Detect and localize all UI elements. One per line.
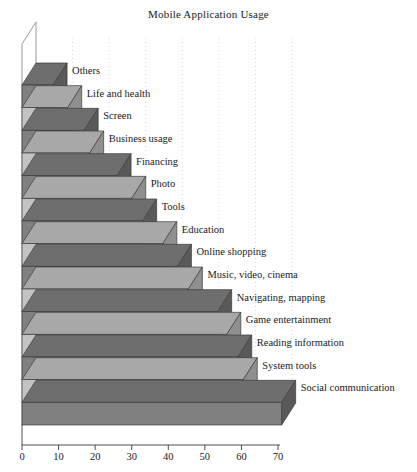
bar-3d bbox=[22, 380, 296, 425]
bar-top-face bbox=[22, 154, 131, 176]
bar-label: Life and health bbox=[87, 89, 151, 100]
bar-label: Screen bbox=[103, 111, 132, 122]
x-tick-label-50: 50 bbox=[200, 452, 211, 463]
bar-front-face bbox=[22, 402, 282, 425]
bar-label: System tools bbox=[262, 361, 316, 372]
x-tick-label-30: 30 bbox=[126, 452, 137, 463]
bar-top-face bbox=[22, 335, 252, 357]
chart-plot-area bbox=[0, 0, 417, 472]
bar-top-face bbox=[22, 358, 257, 380]
bar-label: Social communication bbox=[301, 383, 395, 394]
bar-top-face bbox=[22, 312, 241, 334]
bar-top-face bbox=[22, 222, 177, 244]
bar-label: Navigating, mapping bbox=[237, 293, 326, 304]
bar-label: Business usage bbox=[109, 134, 173, 145]
bar-top-face bbox=[22, 267, 202, 289]
x-tick-label-10: 10 bbox=[53, 452, 64, 463]
bar-label: Game entertainment bbox=[246, 315, 331, 326]
bar-label: Reading information bbox=[257, 338, 344, 349]
bars-group bbox=[22, 63, 296, 425]
bar-top-face bbox=[22, 380, 296, 402]
x-tick-label-20: 20 bbox=[90, 452, 101, 463]
bar-top-face bbox=[22, 290, 232, 312]
bar-top-face bbox=[22, 176, 146, 198]
bar-label: Music, video, cinema bbox=[207, 270, 297, 281]
bar-label: Financing bbox=[136, 157, 178, 168]
bar-label: Online shopping bbox=[196, 247, 266, 258]
chart-root: Mobile Application Usage 010203040506070… bbox=[0, 0, 417, 472]
bar-top-face bbox=[22, 199, 157, 221]
x-tick-label-40: 40 bbox=[163, 452, 174, 463]
bar-label: Photo bbox=[151, 179, 176, 190]
bar-label: Education bbox=[182, 225, 225, 236]
axis-lines-group bbox=[22, 425, 280, 450]
x-tick-label-0: 0 bbox=[19, 452, 24, 463]
bar-top-face bbox=[22, 244, 191, 266]
bar-label: Tools bbox=[162, 202, 185, 213]
x-tick-label-60: 60 bbox=[236, 452, 247, 463]
bar-label: Others bbox=[72, 66, 100, 77]
x-tick-label-70: 70 bbox=[273, 452, 284, 463]
